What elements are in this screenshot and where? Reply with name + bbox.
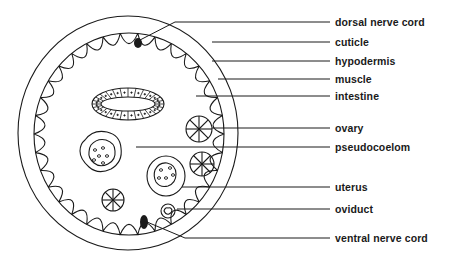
label-ovary: ovary [335, 122, 364, 134]
label-dorsal-nerve-cord: dorsal nerve cord [335, 16, 425, 28]
label-muscle: muscle [335, 73, 372, 85]
muscle-layer [34, 33, 224, 234]
label-pseudocoelom: pseudocoelom [335, 141, 410, 153]
leader-lines [136, 22, 330, 238]
label-cuticle: cuticle [335, 36, 369, 48]
uterus-right [147, 156, 185, 196]
cuticle-outer [18, 16, 238, 250]
ventral-nerve-cord-shape [140, 215, 148, 229]
nematode-cross-section-diagram [0, 0, 449, 266]
hypodermis-boundary [34, 33, 224, 235]
dorsal-nerve-cord-shape [134, 38, 142, 48]
label-oviduct: oviduct [335, 203, 373, 215]
intestine-shape [92, 88, 164, 120]
label-uterus: uterus [335, 181, 368, 193]
label-intestine: intestine [335, 90, 379, 102]
label-ventral-nerve-cord: ventral nerve cord [335, 232, 428, 244]
label-hypodermis: hypodermis [335, 55, 396, 67]
uterus-left [80, 131, 121, 171]
